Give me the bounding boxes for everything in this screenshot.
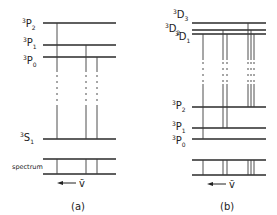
arrow-left-icon: [57, 181, 76, 185]
arrow-left-icon: [207, 182, 226, 186]
label-a-3P0: 3P0: [23, 54, 37, 68]
label-a-3P1: 3P1: [23, 36, 37, 50]
label-b-3P2: 3P2: [172, 99, 186, 113]
spectrum-label: spectrum: [12, 163, 43, 171]
label-b-3D1: 3D1: [175, 30, 191, 44]
label-b-3D3: 3D3: [173, 8, 189, 22]
caption-a: (a): [71, 201, 85, 212]
wavenumber-symbol-a: ṽ: [79, 178, 85, 189]
wavenumber-symbol-b: ṽ: [229, 179, 235, 190]
label-a-3S1: 3S1: [20, 131, 34, 145]
label-b-3P0: 3P0: [172, 134, 186, 148]
caption-b: (b): [220, 201, 234, 212]
label-a-3P2: 3P2: [22, 17, 36, 31]
panel-b: 3D3 3D2 3D1 3P2 3P1 3P0 ṽ (b): [165, 8, 266, 212]
energy-level-diagram: 3P2 3P1 3P0 3S1 spectrum ṽ (a): [0, 0, 277, 215]
panel-a: 3P2 3P1 3P0 3S1 spectrum ṽ (a): [12, 17, 116, 212]
label-b-3P1: 3P1: [172, 120, 186, 134]
